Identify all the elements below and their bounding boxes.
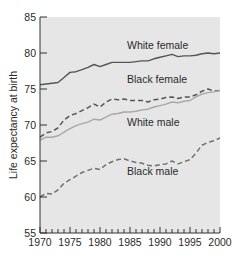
x-tick-label: 1985 xyxy=(118,236,142,248)
y-tick-label: 75 xyxy=(24,83,36,95)
y-tick-label: 80 xyxy=(24,47,36,59)
y-tick-label: 70 xyxy=(24,119,36,131)
x-tick-label: 1990 xyxy=(148,236,172,248)
y-axis-label: Life expectancy at birth xyxy=(7,71,19,179)
y-tick-label: 85 xyxy=(24,11,36,23)
series-label-white-female: White female xyxy=(127,39,188,51)
y-tick-label: 60 xyxy=(24,191,36,203)
x-tick-label: 2000 xyxy=(208,236,232,248)
x-tick-label: 1980 xyxy=(88,236,112,248)
x-tick-label: 1970 xyxy=(28,236,52,248)
series-label-black-female: Black female xyxy=(127,73,187,85)
life-expectancy-chart: White femaleBlack femaleWhite maleBlack … xyxy=(0,0,239,262)
x-tick-label: 1975 xyxy=(58,236,82,248)
series-label-white-male: White male xyxy=(127,116,180,128)
y-tick-label: 65 xyxy=(24,155,36,167)
x-tick-label: 1995 xyxy=(178,236,202,248)
series-label-black-male: Black male xyxy=(127,165,179,177)
